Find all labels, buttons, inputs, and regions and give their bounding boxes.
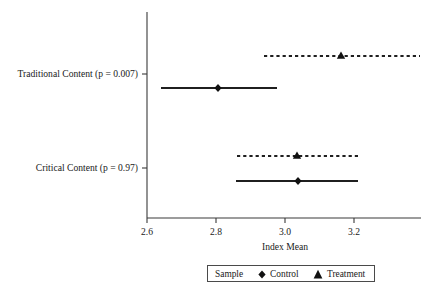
x-tick-label-2: 3.0: [279, 226, 291, 237]
x-axis-title: Index Mean: [262, 241, 308, 252]
legend-label-treatment: Treatment: [327, 269, 366, 279]
x-tick-label-0: 2.6: [141, 226, 153, 237]
marker-diamond-traditional-control: [214, 84, 221, 92]
category-label-traditional: Traditional Content (p = 0.007): [18, 68, 138, 80]
x-tick-label-3: 3.2: [348, 226, 360, 237]
legend-label-control: Control: [270, 269, 299, 279]
x-tick-label-1: 2.8: [210, 226, 222, 237]
category-label-critical: Critical Content (p = 0.97): [36, 162, 138, 174]
marker-diamond-critical-control: [294, 177, 301, 185]
forest-plot-chart: Traditional Content (p = 0.007) Critical…: [0, 0, 425, 296]
marker-triangle-traditional-treatment: [337, 52, 345, 59]
legend: Sample Control Treatment: [208, 266, 375, 282]
plot-area: Traditional Content (p = 0.007) Critical…: [0, 0, 425, 296]
legend-title: Sample: [215, 269, 243, 279]
